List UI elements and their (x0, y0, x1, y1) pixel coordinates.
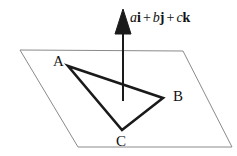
vertex-label-a: A (53, 54, 64, 69)
plane-parallelogram (20, 50, 232, 147)
vertex-label-c: C (116, 134, 126, 149)
vector-plane-figure: A B C ai+bj+ck (0, 0, 237, 156)
vector-scalar-a: a (130, 10, 137, 25)
vertex-label-b: B (173, 89, 183, 104)
vector-plus-1: + (141, 10, 153, 25)
vector-unit-k: k (183, 10, 191, 25)
triangle-ABC (68, 66, 163, 130)
normal-vector-arrowhead-icon (115, 9, 131, 34)
normal-vector-label: ai+bj+ck (130, 11, 190, 25)
vector-plus-2: + (164, 10, 176, 25)
vector-scalar-b: b (153, 10, 160, 25)
